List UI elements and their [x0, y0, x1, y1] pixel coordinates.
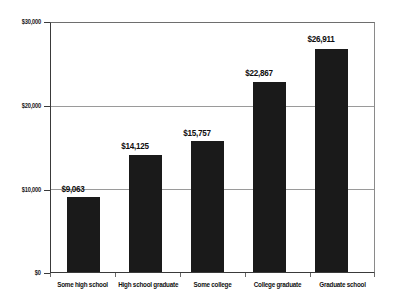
bar-some-high-school — [67, 197, 100, 272]
y-axis-label-10000: $10,000 — [22, 186, 41, 193]
bar-some-college — [191, 141, 224, 272]
bar-college-graduate — [253, 82, 286, 272]
category-label-graduate-school: Graduate school — [313, 281, 372, 288]
value-label-college-graduate: $22,867 — [231, 68, 287, 78]
value-label-some-college: $15,757 — [169, 128, 225, 138]
value-label-graduate-school: $26,911 — [293, 34, 349, 44]
y-axis-label-0: $0 — [35, 269, 41, 276]
plot-area — [50, 22, 375, 273]
value-label-high-school-graduate: $14,125 — [107, 141, 163, 151]
x-axis-tick-5 — [374, 273, 375, 277]
x-axis-tick-1 — [115, 273, 116, 277]
category-label-college-graduate: College graduate — [248, 281, 307, 288]
category-label-some-high-school: Some high school — [53, 281, 112, 288]
x-axis-tick-2 — [180, 273, 181, 277]
y-axis-label-30000: $30,000 — [22, 18, 41, 25]
x-axis-tick-3 — [245, 273, 246, 277]
value-label-some-high-school: $9,063 — [45, 184, 101, 194]
category-label-high-school-graduate: High school graduate — [118, 281, 177, 288]
x-axis-tick-0 — [50, 273, 51, 277]
y-axis-label-20000: $20,000 — [22, 102, 41, 109]
x-axis-tick-4 — [310, 273, 311, 277]
bar-high-school-graduate — [129, 155, 162, 272]
bar-graduate-school — [315, 49, 348, 272]
bar-chart: $30,000 $20,000 $10,000 $0 $9,063 $14,12… — [0, 0, 393, 308]
category-label-some-college: Some college — [183, 281, 242, 288]
